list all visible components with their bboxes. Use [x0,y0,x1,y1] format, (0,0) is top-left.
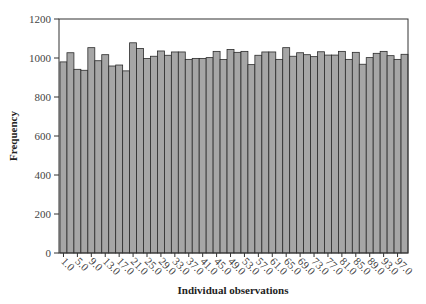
histogram-bar [401,54,408,253]
y-tick-label: 1000 [29,52,52,64]
x-axis: 1.05.09.013.017.021.025.029.033.037.041.… [59,253,416,277]
histogram-bar [338,51,345,253]
histogram-bar [206,58,213,253]
histogram-bar [283,48,290,253]
histogram-bar [171,52,178,253]
histogram-bar [331,55,338,253]
histogram-bar [81,70,88,253]
histogram-bar [88,48,95,253]
histogram-bar [192,58,199,253]
y-tick-label: 800 [35,91,52,103]
histogram-bar [95,61,102,253]
histogram-bar [373,53,380,253]
histogram-bar [276,59,283,253]
histogram-bar [199,58,206,253]
x-tick-label: 97.0 [393,255,415,277]
histogram-bar [387,56,394,253]
histogram-bar [394,59,401,253]
histogram-bar [213,51,220,253]
histogram-bar [290,56,297,253]
histogram-bar [164,55,171,253]
y-axis: 020040060080010001200 [29,13,59,259]
histogram-bar [345,59,352,253]
histogram-bar [102,55,109,253]
histogram-bar [324,55,331,253]
histogram-bar [352,52,359,253]
histogram-bar [137,48,144,253]
histogram-bar [318,52,325,253]
histogram-bar [269,52,276,253]
histogram-bar [359,64,366,253]
y-axis-title: Frequency [7,111,19,161]
y-tick-label: 0 [46,247,52,259]
histogram-bar [366,58,373,253]
histogram-bar [262,52,269,253]
histogram-chart: 020040060080010001200 1.05.09.013.017.02… [0,0,426,304]
histogram-bar [220,60,227,253]
histogram-bar [178,52,185,253]
histogram-bar [234,52,241,253]
histogram-bar [297,53,304,253]
histogram-bar [74,69,81,253]
y-tick-label: 600 [35,130,52,142]
x-axis-title: Individual observations [178,284,290,296]
y-tick-label: 400 [35,169,52,181]
histogram-bar [255,55,262,253]
histogram-bar [130,43,137,253]
y-tick-label: 200 [35,208,52,220]
histogram-bar [227,49,234,253]
histogram-bar [144,59,151,253]
histogram-bar [380,51,387,253]
histogram-bar [150,56,157,253]
histogram-bar [311,57,318,253]
histogram-bar [157,51,164,253]
histogram-bar [123,71,130,253]
histogram-bar [60,62,67,253]
histogram-bar [241,51,248,253]
histogram-bar [185,59,192,253]
histogram-bar [116,65,123,253]
y-tick-label: 1200 [29,13,52,25]
bars-group [60,43,408,253]
histogram-bar [67,53,74,253]
histogram-bar [304,55,311,253]
histogram-bar [109,66,116,253]
histogram-bar [248,65,255,253]
